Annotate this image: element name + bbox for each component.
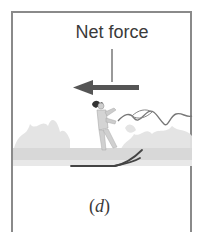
- figure-caption: (d): [0, 196, 199, 217]
- tow-rope: [118, 111, 192, 125]
- caption-letter: d: [95, 196, 104, 216]
- caption-close-paren: ): [104, 196, 110, 216]
- net-force-arrow-icon: [73, 80, 139, 95]
- skier-figure: [92, 101, 117, 150]
